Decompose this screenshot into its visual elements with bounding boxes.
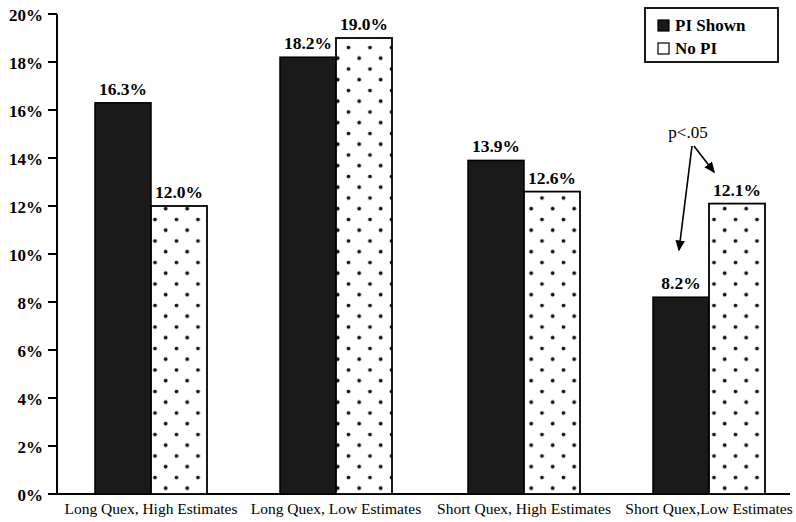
legend-swatch-filled-icon bbox=[658, 20, 669, 31]
y-axis-tick: 12% bbox=[9, 198, 57, 217]
y-axis-tick: 18% bbox=[9, 54, 57, 73]
y-tick-label: 0% bbox=[18, 486, 44, 505]
bar-no-pi[interactable] bbox=[151, 206, 207, 494]
y-tick-label: 14% bbox=[9, 150, 43, 169]
y-axis-tick: 20% bbox=[9, 6, 57, 25]
y-tick-label: 18% bbox=[9, 54, 43, 73]
bar-value-label: 12.1% bbox=[713, 180, 761, 200]
x-category-label: Short Quex, High Estimates bbox=[437, 500, 611, 517]
y-axis: 20% 18% 16% 14% 12% 10% bbox=[9, 6, 57, 505]
x-category-label: Long Quex, High Estimates bbox=[64, 500, 237, 517]
y-tick-label: 12% bbox=[9, 198, 43, 217]
bar-value-label: 19.0% bbox=[340, 14, 388, 34]
y-axis-tick: 10% bbox=[9, 246, 57, 265]
y-tick-label: 6% bbox=[18, 342, 44, 361]
significance-annotation: p<.05 bbox=[668, 123, 714, 250]
y-axis-tick: 16% bbox=[9, 102, 57, 121]
y-tick-label: 2% bbox=[18, 438, 44, 457]
bar-group: 8.2% 12.1% Short Quex,Low Estimates bbox=[625, 180, 792, 517]
y-tick-label: 20% bbox=[9, 6, 43, 25]
y-axis-tick: 14% bbox=[9, 150, 57, 169]
bar-group: 13.9% 12.6% Short Quex, High Estimates bbox=[437, 136, 611, 517]
bar-value-label: 12.0% bbox=[155, 182, 203, 202]
legend-swatch-empty-icon bbox=[658, 43, 669, 54]
y-axis-tick: 0% bbox=[18, 486, 58, 505]
bar-value-label: 13.9% bbox=[472, 136, 520, 156]
bar-pi-shown[interactable] bbox=[468, 160, 524, 494]
legend-item-label: PI Shown bbox=[675, 16, 746, 35]
y-axis-tick: 4% bbox=[18, 390, 58, 409]
y-axis-tick: 2% bbox=[18, 438, 58, 457]
y-axis-tick: 6% bbox=[18, 342, 58, 361]
bar-chart: 20% 18% 16% 14% 12% 10% bbox=[0, 0, 796, 522]
bar-value-label: 8.2% bbox=[661, 273, 700, 293]
bar-value-label: 12.6% bbox=[528, 168, 576, 188]
bar-pi-shown[interactable] bbox=[280, 57, 336, 494]
x-category-label: Long Quex, Low Estimates bbox=[251, 500, 421, 517]
x-category-label: Short Quex,Low Estimates bbox=[625, 500, 792, 517]
y-tick-label: 10% bbox=[9, 246, 43, 265]
bar-group: 18.2% 19.0% Long Quex, Low Estimates bbox=[251, 14, 421, 517]
p-value-label: p<.05 bbox=[668, 123, 707, 142]
bar-no-pi[interactable] bbox=[524, 192, 580, 494]
bar-value-label: 18.2% bbox=[284, 33, 332, 53]
bar-no-pi[interactable] bbox=[336, 38, 392, 494]
legend: PI Shown No PI bbox=[645, 8, 778, 62]
annotation-arrow-left bbox=[679, 146, 692, 250]
bar-value-label: 16.3% bbox=[99, 79, 147, 99]
y-axis-tick: 8% bbox=[18, 294, 58, 313]
legend-item-label: No PI bbox=[675, 39, 717, 58]
bar-group: 16.3% 12.0% Long Quex, High Estimates bbox=[64, 79, 237, 517]
y-tick-label: 8% bbox=[18, 294, 44, 313]
y-tick-label: 16% bbox=[9, 102, 43, 121]
y-tick-label: 4% bbox=[18, 390, 44, 409]
bar-pi-shown[interactable] bbox=[95, 103, 151, 494]
annotation-arrow-right bbox=[694, 146, 714, 172]
bar-pi-shown[interactable] bbox=[653, 297, 709, 494]
chart-canvas: 20% 18% 16% 14% 12% 10% bbox=[0, 0, 796, 522]
bar-no-pi[interactable] bbox=[709, 204, 765, 494]
